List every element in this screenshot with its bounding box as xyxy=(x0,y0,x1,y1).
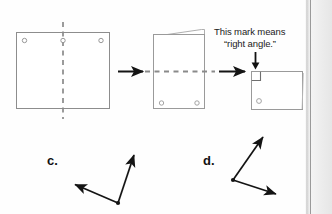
angle-d-ray-1 xyxy=(233,137,263,180)
hole-icon xyxy=(159,101,163,105)
angle-c-vertex xyxy=(116,201,120,205)
step-folded-once xyxy=(145,30,215,109)
annotation-pointer-arrow xyxy=(252,52,260,70)
pointer-head xyxy=(252,63,260,70)
worksheet-page: This mark means “right angle.” c. d. xyxy=(0,0,332,214)
annotation-line-1: This mark means xyxy=(214,26,285,38)
angle-d xyxy=(231,137,276,194)
angle-d-ray-2 xyxy=(233,180,276,194)
adjacent-page-panel xyxy=(311,0,332,214)
hole-icon xyxy=(61,38,65,42)
hole-icon xyxy=(257,99,262,104)
hole-icon xyxy=(195,101,199,105)
step-folded-twice xyxy=(252,72,304,110)
hole-icon xyxy=(22,38,26,42)
problem-label-c: c. xyxy=(47,153,58,168)
annotation-line-2: “right angle.” xyxy=(224,38,276,50)
hole-icon xyxy=(99,38,103,42)
angle-c-ray-1 xyxy=(75,185,118,204)
step-unfolded-sheet xyxy=(17,22,110,119)
angle-d-vertex xyxy=(231,178,235,182)
page-shadow xyxy=(306,0,309,214)
angle-c xyxy=(75,155,134,205)
problem-label-d: d. xyxy=(203,153,215,168)
angle-c-ray-2 xyxy=(118,155,134,203)
